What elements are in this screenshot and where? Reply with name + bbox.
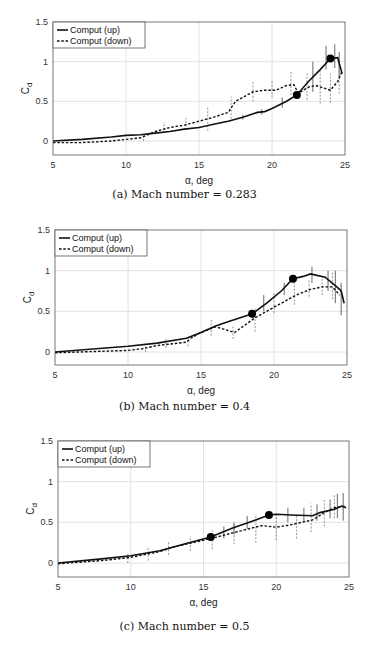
marker-dot xyxy=(207,533,215,541)
legend: Comput (up)Comput (down) xyxy=(55,230,147,256)
legend-up-label: Comput (up) xyxy=(75,444,125,454)
y-axis-label: Cd xyxy=(20,83,34,95)
legend-up-label: Comput (up) xyxy=(70,25,120,35)
legend-up-label: Comput (up) xyxy=(72,233,122,243)
legend-down-label: Comput (down) xyxy=(75,455,137,465)
x-tick-label: 25 xyxy=(344,582,354,592)
y-tick-label: 0 xyxy=(45,347,50,357)
svg-text:Cd: Cd xyxy=(25,503,39,515)
x-tick-label: 20 xyxy=(269,370,279,380)
y-tick-label: 0 xyxy=(48,558,53,568)
svg-text:Cd: Cd xyxy=(20,83,34,95)
y-tick-label: 1.5 xyxy=(35,17,48,27)
marker-dot xyxy=(293,91,301,99)
x-tick-label: 20 xyxy=(267,160,277,170)
x-tick-label: 20 xyxy=(271,582,281,592)
x-axis-label: α, deg xyxy=(187,385,215,396)
y-axis-label: Cd xyxy=(25,503,39,515)
x-tick-label: 5 xyxy=(55,582,60,592)
chart-panel-a: 51015202500.511.5Comput (up)Comput (down… xyxy=(0,0,369,212)
y-tick-label: 1.5 xyxy=(40,436,53,446)
marker-dot xyxy=(265,511,273,519)
caption-b: (b) Mach number = 0.4 xyxy=(0,400,369,413)
chart-panel-b: 51015202500.511.5Comput (up)Comput (down… xyxy=(0,212,369,424)
x-tick-label: 15 xyxy=(198,582,208,592)
caption-c: (c) Mach number = 0.5 xyxy=(0,620,369,633)
y-tick-label: 0.5 xyxy=(37,306,50,316)
x-axis-label: α, deg xyxy=(185,175,213,186)
y-tick-label: 1 xyxy=(48,477,53,487)
chart-c: 51015202500.511.5Comput (up)Comput (down… xyxy=(0,424,369,619)
y-tick-label: 1.5 xyxy=(37,225,50,235)
legend: Comput (up)Comput (down) xyxy=(58,441,150,467)
x-tick-label: 10 xyxy=(123,370,133,380)
chart-a: 51015202500.511.5Comput (up)Comput (down… xyxy=(0,0,369,195)
marker-dot xyxy=(248,310,256,318)
legend-down-label: Comput (down) xyxy=(72,244,134,254)
caption-a: (a) Mach number = 0.283 xyxy=(0,188,369,201)
x-tick-label: 10 xyxy=(121,160,131,170)
x-axis-label: α, deg xyxy=(189,597,217,608)
y-tick-label: 0.5 xyxy=(35,96,48,106)
marker-dot xyxy=(326,54,334,62)
x-tick-label: 15 xyxy=(194,160,204,170)
x-tick-label: 15 xyxy=(196,370,206,380)
y-tick-label: 0 xyxy=(43,136,48,146)
x-tick-label: 25 xyxy=(342,370,352,380)
chart-b: 51015202500.511.5Comput (up)Comput (down… xyxy=(0,212,369,407)
chart-panel-c: 51015202500.511.5Comput (up)Comput (down… xyxy=(0,424,369,645)
x-tick-label: 10 xyxy=(126,582,136,592)
y-axis-label: Cd xyxy=(22,292,36,304)
x-tick-label: 25 xyxy=(340,160,350,170)
x-tick-label: 5 xyxy=(50,160,55,170)
y-tick-label: 1 xyxy=(45,266,50,276)
legend: Comput (up)Comput (down) xyxy=(53,22,145,48)
marker-dot xyxy=(289,275,297,283)
svg-text:Cd: Cd xyxy=(22,292,36,304)
y-tick-label: 1 xyxy=(43,57,48,67)
y-tick-label: 0.5 xyxy=(40,517,53,527)
x-tick-label: 5 xyxy=(52,370,57,380)
legend-down-label: Comput (down) xyxy=(70,36,132,46)
